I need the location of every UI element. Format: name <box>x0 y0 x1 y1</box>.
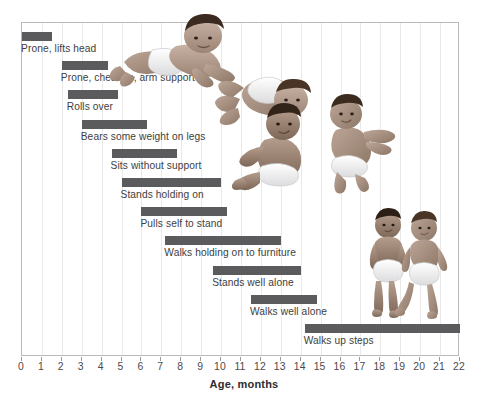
gridline <box>380 23 381 355</box>
milestone-label: Prone, chest up, arm support <box>61 72 195 83</box>
milestone-bar <box>82 120 148 129</box>
milestone-label: Pulls self to stand <box>140 218 222 229</box>
milestone-bar <box>213 266 301 275</box>
milestone-bar <box>141 207 227 216</box>
milestone-bar <box>62 61 108 70</box>
milestone-bar <box>22 32 52 41</box>
milestone-label: Walks up steps <box>304 335 374 346</box>
chart-plot-area: Prone, lifts headProne, chest up, arm su… <box>21 22 459 356</box>
milestone-label: Stands holding on <box>121 189 204 200</box>
milestone-bar <box>305 324 460 333</box>
milestone-label: Walks holding on to furniture <box>164 247 296 258</box>
milestone-label: Sits without support <box>111 160 202 171</box>
milestone-chart-figure: Prone, lifts headProne, chest up, arm su… <box>0 0 488 397</box>
gridline <box>221 23 222 355</box>
milestone-label: Bears some weight on legs <box>81 131 206 142</box>
milestone-bar <box>165 236 280 245</box>
milestone-label: Prone, lifts head <box>21 43 96 54</box>
gridline <box>341 23 342 355</box>
gridline <box>440 23 441 355</box>
x-axis-title: Age, months <box>0 378 488 390</box>
milestone-bar <box>122 178 222 187</box>
gridline <box>400 23 401 355</box>
x-axis: 012345678910111213141516171819202122 <box>21 357 459 375</box>
x-axis-tick-label: 22 <box>447 361 471 372</box>
gridline <box>420 23 421 355</box>
milestone-label: Walks well alone <box>250 306 327 317</box>
milestone-bar <box>112 149 178 158</box>
gridline <box>360 23 361 355</box>
milestone-label: Stands well alone <box>212 277 294 288</box>
gridline <box>42 23 43 355</box>
milestone-bar <box>251 295 317 304</box>
milestone-bar <box>68 90 118 99</box>
gridline <box>241 23 242 355</box>
milestone-label: Rolls over <box>67 101 113 112</box>
